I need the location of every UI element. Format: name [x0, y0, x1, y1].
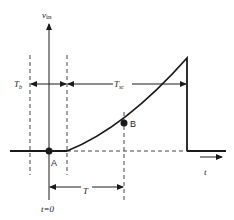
y-axis-label: vin	[42, 10, 52, 21]
interval-tb-label: Tb	[14, 79, 22, 90]
point-a	[46, 148, 53, 155]
interval-tsc-label: Tsc	[114, 79, 124, 90]
ramp-curve	[67, 58, 187, 151]
point-a-label: A	[51, 158, 57, 168]
timing-diagram: vin A B Tb Tsc T t t=0	[0, 0, 234, 220]
interval-t-label: T	[83, 186, 89, 196]
point-b	[121, 120, 128, 127]
x-axis-label: t	[204, 167, 207, 177]
point-b-label: B	[130, 119, 136, 129]
origin-label: t=0	[41, 204, 55, 214]
